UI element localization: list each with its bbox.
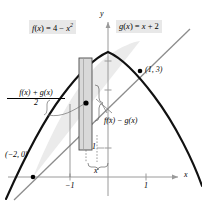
x-tick-label-minus1: −1	[65, 182, 74, 190]
equation-label-f-text: f(x) = 4 − x2	[32, 23, 73, 33]
height-label: f(x) − g(x)	[104, 117, 137, 125]
x-axis-label: x	[184, 171, 188, 179]
y-axis-label: y	[100, 10, 104, 18]
point-label-1-3: (1, 3)	[145, 66, 162, 74]
equation-label-g: g(x) = x + 2	[116, 20, 162, 33]
x-tick-label-1: 1	[144, 182, 148, 190]
y-tick-label-1: 1	[92, 143, 96, 151]
equation-label-g-text: g(x) = x + 2	[119, 21, 159, 31]
leader-height-2	[96, 99, 112, 113]
width-brace-label: x	[94, 167, 98, 175]
point-label-minus2-0: (−2, 0)	[5, 151, 28, 159]
y-axis-arrow	[106, 22, 111, 28]
midpoint-fraction-numerator: f(x) + g(x)	[7, 89, 65, 97]
midpoint-dot	[83, 100, 88, 105]
point-dot-minus2-0	[31, 175, 36, 180]
width-brace	[88, 163, 108, 170]
x-axis-arrow	[172, 175, 178, 180]
midpoint-fraction-label: f(x) + g(x) 2	[7, 89, 65, 108]
equation-label-f: f(x) = 4 − x2	[29, 20, 76, 34]
point-dot-1-3	[138, 69, 143, 74]
midpoint-fraction-denominator: 2	[7, 99, 65, 108]
